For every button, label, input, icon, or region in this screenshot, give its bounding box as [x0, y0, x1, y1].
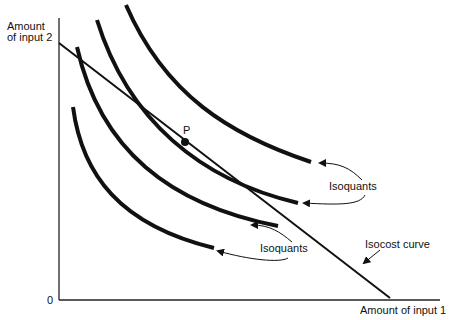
tangency-point	[181, 138, 189, 146]
y-axis-label-line2: of input 2	[7, 31, 52, 43]
isocost-label: Isocost curve	[365, 238, 430, 250]
isocost-line	[59, 43, 390, 298]
isoquants-label-upper: Isoquants	[329, 180, 377, 192]
isoquant-3	[97, 20, 298, 203]
isoquant-4	[126, 5, 311, 162]
arrow-isocost	[364, 250, 380, 263]
isoquants-label-lower: Isoquants	[260, 242, 308, 254]
isoquant-1	[73, 107, 214, 248]
x-axis-label: Amount of input 1	[360, 304, 446, 316]
arrow-lower-1	[252, 225, 292, 242]
arrow-upper-2	[304, 195, 365, 204]
diagram-svg	[0, 0, 450, 320]
origin-label: 0	[47, 294, 53, 306]
arrow-upper-1	[320, 163, 362, 180]
point-label: P	[183, 124, 190, 136]
